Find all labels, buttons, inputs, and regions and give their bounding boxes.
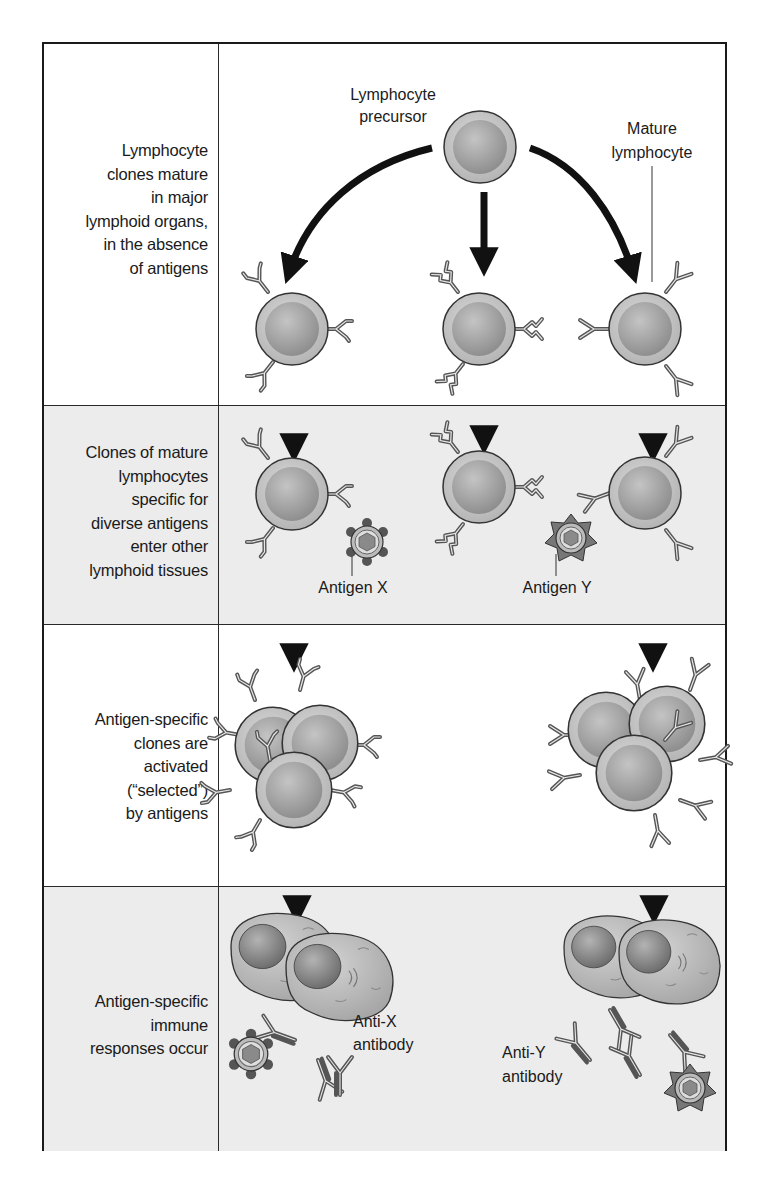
svg-text:Mature: Mature bbox=[627, 120, 677, 137]
svg-text:Antigen X: Antigen X bbox=[318, 579, 388, 596]
anti-y-label: Anti-Y antibody bbox=[502, 1044, 563, 1085]
svg-text:Anti-Y: Anti-Y bbox=[502, 1044, 546, 1061]
diagram-artwork: Lymphocyte precursor Mature lymphocyte bbox=[0, 0, 760, 1177]
svg-text:lymphocyte: lymphocyte bbox=[612, 144, 693, 161]
arrow-right bbox=[530, 148, 632, 270]
precursor-label: Lymphocyte precursor bbox=[350, 86, 436, 125]
clone-diverse bbox=[432, 422, 542, 554]
anti-x-label: Anti-X antibody bbox=[353, 1013, 414, 1053]
anti-x-antibodies bbox=[255, 1016, 352, 1100]
clone-y-specific bbox=[579, 427, 692, 559]
mature-lymphocyte-label: Mature lymphocyte bbox=[612, 120, 693, 282]
clone-x-specific bbox=[243, 427, 352, 557]
precursor-cell bbox=[444, 111, 516, 183]
antigen-y-bound bbox=[664, 1064, 716, 1111]
activated-clone-x-cluster bbox=[198, 659, 380, 850]
mature-clone-b bbox=[432, 262, 542, 394]
svg-text:antibody: antibody bbox=[353, 1036, 414, 1053]
arrows-row1-row2 bbox=[294, 380, 653, 448]
arrows-row2-row3 bbox=[294, 555, 653, 658]
arrows-row3-row4 bbox=[297, 840, 654, 910]
svg-text:precursor: precursor bbox=[359, 108, 427, 125]
svg-text:Anti-X: Anti-X bbox=[353, 1013, 397, 1030]
mature-clone-a bbox=[243, 261, 352, 391]
svg-text:antibody: antibody bbox=[502, 1068, 563, 1085]
antigen-y: Antigen Y bbox=[522, 514, 597, 596]
antigen-x: Antigen X bbox=[318, 518, 388, 596]
svg-text:Antigen Y: Antigen Y bbox=[522, 579, 591, 596]
plasma-cells-y bbox=[564, 916, 720, 1004]
activated-clone-y-cluster bbox=[549, 659, 731, 846]
anti-y-antibodies bbox=[556, 1004, 703, 1081]
mature-clone-c bbox=[580, 263, 692, 395]
plasma-cells-x bbox=[231, 914, 393, 1021]
arrow-left bbox=[290, 148, 432, 270]
svg-text:Lymphocyte: Lymphocyte bbox=[350, 86, 436, 103]
